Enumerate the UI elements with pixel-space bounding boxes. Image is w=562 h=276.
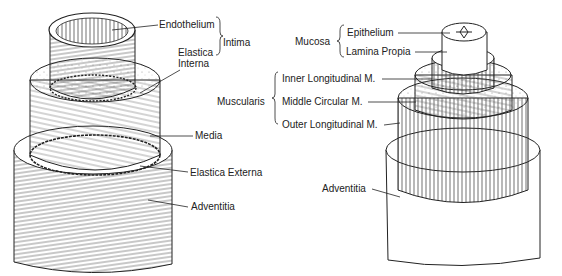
label-epithelium: Epithelium bbox=[347, 27, 394, 39]
label-inner-longitudinal: Inner Longitudinal M. bbox=[282, 73, 375, 85]
gut-mucosa bbox=[442, 23, 487, 75]
label-elastica-interna-2: Interna bbox=[178, 58, 209, 70]
label-endothelium: Endothelium bbox=[159, 19, 215, 31]
label-middle-circular: Middle Circular M. bbox=[282, 96, 363, 108]
anatomy-figure: Endothelium Intima Elastica Interna Medi… bbox=[0, 0, 562, 276]
artery-illustration bbox=[0, 0, 562, 276]
label-adventitia-right: Adventitia bbox=[322, 183, 366, 195]
label-adventitia-left: Adventitia bbox=[191, 201, 235, 213]
artery-intima bbox=[49, 13, 136, 101]
label-outer-longitudinal: Outer Longitudinal M. bbox=[282, 119, 378, 131]
label-lamina-propia: Lamina Propia bbox=[346, 46, 410, 58]
label-intima: Intima bbox=[223, 37, 250, 49]
label-muscularis: Muscularis bbox=[217, 96, 265, 108]
label-media: Media bbox=[195, 130, 222, 142]
label-mucosa: Mucosa bbox=[295, 36, 330, 48]
label-elastica-externa: Elastica Externa bbox=[190, 167, 262, 179]
